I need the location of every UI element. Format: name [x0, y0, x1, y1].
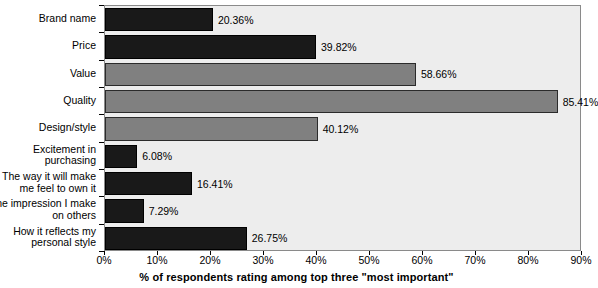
bar [105, 172, 192, 195]
bar [105, 199, 144, 222]
bar [105, 35, 316, 58]
category-label: Brand name [0, 5, 96, 32]
bar-value-label: 26.75% [252, 233, 288, 244]
x-tick-label: 10% [146, 254, 167, 266]
category-label: The way it will makeme feel to own it [0, 169, 96, 196]
category-label-line: Price [72, 40, 96, 52]
bar-value-label: 58.66% [421, 69, 457, 80]
category-axis-labels: Brand namePriceValueQualityDesign/styleE… [0, 5, 100, 251]
x-tick-label: 40% [305, 254, 326, 266]
category-label-line: Brand name [39, 13, 96, 25]
category-label-line: personal style [31, 237, 96, 249]
x-tick-label: 20% [199, 254, 220, 266]
category-label-line: purchasing [45, 155, 96, 167]
category-label-line: Design/style [39, 122, 96, 134]
category-tick [99, 169, 104, 170]
category-label: Excitement inpurchasing [0, 142, 96, 169]
bar-value-label: 16.41% [197, 179, 233, 190]
category-label-line: Value [70, 68, 96, 80]
x-axis-title: % of respondents rating among top three … [0, 271, 593, 283]
bar-value-label: 85.41% [563, 97, 598, 108]
bar [105, 145, 137, 168]
x-tick-label: 90% [570, 254, 591, 266]
category-tick [99, 5, 104, 6]
category-label: The impression I makeon others [0, 196, 96, 223]
x-tick-label: 80% [517, 254, 538, 266]
category-label: Quality [0, 87, 96, 114]
category-tick [99, 60, 104, 61]
category-label-line: The way it will make [2, 171, 96, 183]
bar [105, 227, 247, 250]
bar [105, 8, 213, 31]
bar [105, 63, 416, 86]
category-label: Design/style [0, 114, 96, 141]
bar [105, 90, 558, 113]
bar [105, 117, 318, 140]
bar-value-label: 40.12% [323, 124, 359, 135]
category-tick [99, 32, 104, 33]
category-label: Price [0, 32, 96, 59]
category-tick [99, 142, 104, 143]
category-label-line: on others [52, 210, 96, 222]
bar-value-label: 39.82% [321, 42, 357, 53]
category-tick [99, 224, 104, 225]
x-tick-label: 70% [464, 254, 485, 266]
bar-value-label: 6.08% [142, 151, 172, 162]
bar-value-label: 7.29% [149, 206, 179, 217]
category-label-line: me feel to own it [20, 183, 96, 195]
x-tick-label: 0% [96, 254, 111, 266]
x-tick-label: 60% [411, 254, 432, 266]
category-label-line: Quality [63, 95, 96, 107]
category-label: How it reflects mypersonal style [0, 224, 96, 251]
category-tick [99, 87, 104, 88]
bar-value-label: 20.36% [218, 15, 254, 26]
category-label: Value [0, 60, 96, 87]
category-tick [99, 196, 104, 197]
category-tick [99, 114, 104, 115]
plot-area: 20.36%39.82%58.66%85.41%40.12%6.08%16.41… [104, 5, 581, 251]
x-tick-label: 50% [358, 254, 379, 266]
x-tick-label: 30% [252, 254, 273, 266]
